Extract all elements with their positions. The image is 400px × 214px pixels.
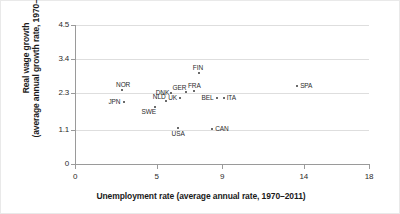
y-tick-label: 0 [43,159,69,168]
gridline-y [75,25,369,26]
data-point-label: FRA [188,82,201,89]
data-point-label: CAN [215,125,228,132]
y-tick-mark [71,130,76,131]
data-point-label: BEL [202,94,214,101]
y-tick-label: 4.5 [43,20,69,29]
data-point-label: ITA [227,94,236,101]
x-tick-mark [157,164,158,169]
y-tick-label: 1.1 [43,125,69,134]
y-axis-line [75,25,76,164]
y-tick-mark [71,59,76,60]
chart-figure: Real wage growth (average annual growth … [0,0,400,214]
x-tick-label: 14 [289,172,319,181]
y-tick-label: 2.3 [43,88,69,97]
data-point-label: SPA [300,82,312,89]
y-axis-title-line1: Real wage growth [21,0,31,148]
y-tick-label: 3.4 [43,54,69,63]
y-axis-title-line2: (average annual growth rate, 1970–2011) [31,0,41,148]
data-point [179,97,181,99]
x-tick-label: 0 [60,172,90,181]
data-point-label: JPN [108,98,120,105]
gridline-y [75,59,369,60]
x-tick-label: 18 [354,172,384,181]
x-tick-label: 5 [142,172,172,181]
data-point-label: UK [168,94,177,101]
x-tick-mark [304,164,305,169]
y-tick-mark [71,25,76,26]
y-tick-mark [71,93,76,94]
data-point-label: USA [172,130,185,137]
data-point-label: SWE [141,108,156,115]
data-point-label: FIN [193,64,203,71]
gridline-y [75,93,369,94]
x-tick-mark [222,164,223,169]
data-point-label: GER [172,84,186,91]
data-point [223,97,225,99]
x-axis-title: Unemployment rate (average annual rate, … [1,191,400,201]
y-axis-title: Real wage growth (average annual growth … [21,0,41,148]
data-point [198,72,200,74]
plot-area [75,25,369,164]
x-tick-mark [369,164,370,169]
x-tick-label: 9 [207,172,237,181]
x-tick-mark [75,164,76,169]
data-point-label: NOR [116,81,130,88]
